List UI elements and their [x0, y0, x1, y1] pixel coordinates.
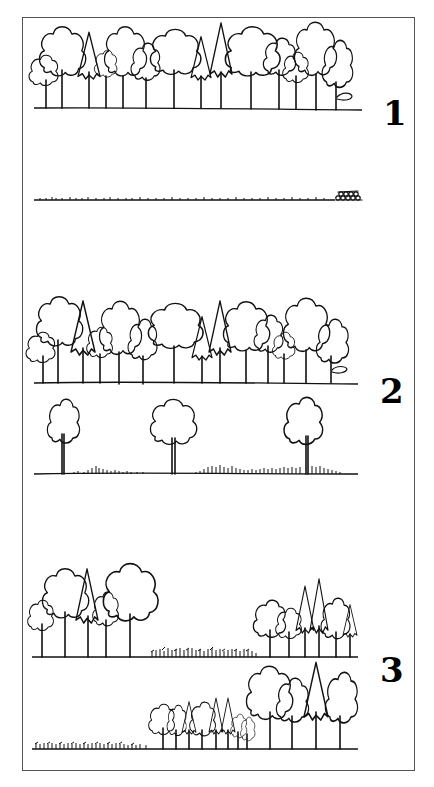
panel-3-strip-cut	[28, 564, 358, 657]
panel-1-clearcut	[34, 191, 362, 200]
panel-1-mature-stand	[29, 22, 362, 110]
ground-line	[34, 108, 362, 110]
young-regeneration	[35, 742, 146, 749]
panel-3-regrowth	[32, 662, 358, 749]
panel-2-mature-stand	[26, 297, 358, 384]
panel-2-seed-tree-cut	[34, 397, 358, 474]
panel-label-1: 1	[383, 96, 407, 130]
young-regeneration	[151, 647, 256, 657]
panel-label-2: 2	[380, 374, 404, 408]
panel-label-3: 3	[380, 653, 404, 687]
log-pile	[336, 191, 362, 200]
forest-illustration	[0, 0, 434, 787]
